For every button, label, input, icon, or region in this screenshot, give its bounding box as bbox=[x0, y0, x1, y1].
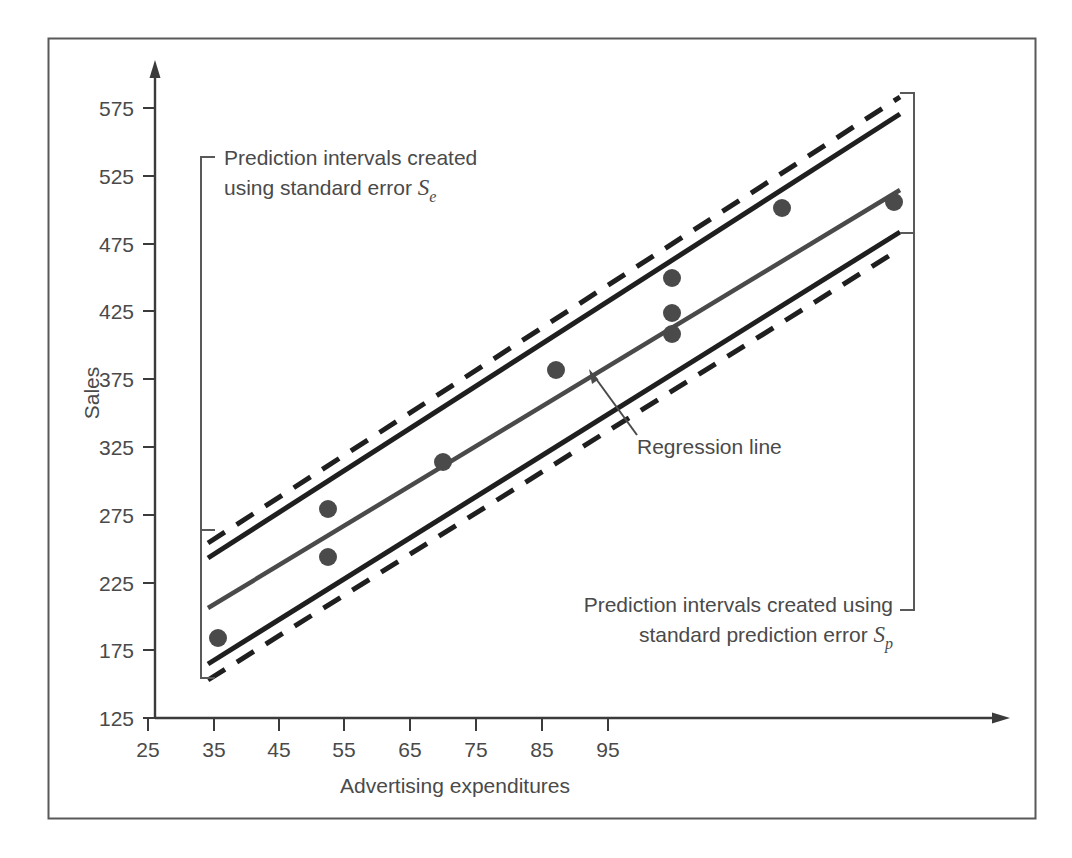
x-tick-label-95: 95 bbox=[596, 738, 619, 761]
prediction-interval-chart: 575 525 475 425 375 325 275 225 175 125 … bbox=[0, 0, 1072, 858]
y-tick-label-375: 375 bbox=[99, 368, 134, 391]
data-point bbox=[209, 629, 227, 647]
data-point bbox=[434, 453, 452, 471]
y-tick-label-425: 425 bbox=[99, 300, 134, 323]
y-tick-label-125: 125 bbox=[99, 707, 134, 730]
y-tick-label-225: 225 bbox=[99, 572, 134, 595]
data-point bbox=[319, 548, 337, 566]
se-callout-subscript: e bbox=[429, 188, 436, 205]
data-point bbox=[319, 500, 337, 518]
x-tick-label-45: 45 bbox=[267, 738, 290, 761]
sp-callout-line1: Prediction intervals created using bbox=[584, 593, 893, 616]
data-point bbox=[663, 304, 681, 322]
y-tick-label-275: 275 bbox=[99, 504, 134, 527]
regression-callout-label: Regression line bbox=[637, 435, 782, 458]
data-point bbox=[663, 269, 681, 287]
figure-container: 575 525 475 425 375 325 275 225 175 125 … bbox=[0, 0, 1072, 858]
x-tick-label-35: 35 bbox=[202, 738, 225, 761]
data-point bbox=[773, 199, 791, 217]
y-tick-label-325: 325 bbox=[99, 436, 134, 459]
y-tick-label-575: 575 bbox=[99, 97, 134, 120]
x-axis-title: Advertising expenditures bbox=[340, 774, 570, 797]
data-point bbox=[663, 325, 681, 343]
x-tick-label-65: 65 bbox=[398, 738, 421, 761]
y-tick-label-175: 175 bbox=[99, 639, 134, 662]
sp-callout-line2-prefix: standard prediction error bbox=[639, 623, 874, 646]
x-tick-label-75: 75 bbox=[464, 738, 487, 761]
x-tick-label-85: 85 bbox=[530, 738, 553, 761]
se-callout-line1: Prediction intervals created bbox=[224, 146, 477, 169]
sp-callout-subscript: p bbox=[884, 635, 893, 653]
se-callout-symbol: S bbox=[418, 175, 430, 200]
data-point bbox=[547, 361, 565, 379]
data-point bbox=[885, 193, 903, 211]
se-callout-line2-prefix: using standard error bbox=[224, 176, 418, 199]
y-axis-title: Sales bbox=[80, 367, 103, 420]
figure-frame bbox=[49, 39, 1036, 819]
sp-callout-symbol: S bbox=[874, 622, 886, 647]
x-tick-label-25: 25 bbox=[136, 738, 159, 761]
y-tick-label-525: 525 bbox=[99, 165, 134, 188]
y-tick-label-475: 475 bbox=[99, 233, 134, 256]
x-tick-label-55: 55 bbox=[332, 738, 355, 761]
